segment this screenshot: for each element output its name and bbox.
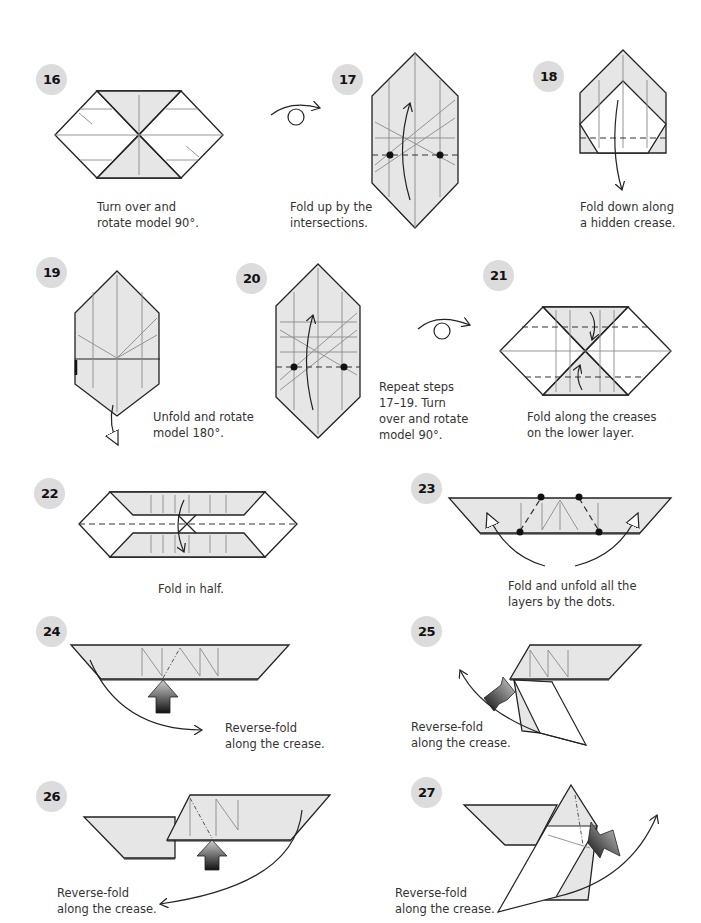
- step-number-badge: 21: [483, 260, 514, 291]
- step-22-figure: [79, 492, 297, 557]
- step-17-caption: Fold up by the intersections.: [290, 199, 372, 231]
- step-25-caption: Reverse-fold along the crease.: [411, 719, 511, 751]
- step-number-badge: 22: [34, 478, 65, 509]
- step-20-figure: [276, 264, 360, 438]
- step-17-figure: [372, 53, 458, 228]
- step-19-figure: [75, 271, 160, 445]
- step-24-figure: [71, 645, 289, 730]
- step-21-caption: Fold along the creases on the lower laye…: [527, 409, 656, 441]
- step-number-badge: 25: [411, 616, 442, 647]
- step-number-badge: 17: [332, 64, 363, 95]
- step-number-badge: 26: [36, 781, 67, 812]
- step-22-caption: Fold in half.: [158, 581, 224, 597]
- turn-over-symbol-icon: [418, 319, 470, 339]
- step-number-badge: 23: [411, 473, 442, 504]
- step-number-badge: 27: [411, 777, 442, 808]
- step-number-badge: 20: [236, 263, 267, 294]
- step-23-figure: [449, 494, 671, 567]
- step-number-badge: 18: [533, 61, 564, 92]
- step-number-badge: 19: [36, 257, 67, 288]
- step-18-caption: Fold down along a hidden crease.: [580, 199, 675, 231]
- step-23-caption: Fold and unfold all the layers by the do…: [508, 578, 636, 610]
- step-19-caption: Unfold and rotate model 180°.: [153, 409, 254, 441]
- step-27-caption: Reverse-fold along the crease.: [395, 885, 495, 917]
- step-number-badge: 24: [36, 616, 67, 647]
- step-20-caption: Repeat steps 17–19. Turn over and rotate…: [379, 379, 468, 443]
- step-16-figure: [55, 91, 223, 178]
- step-number-badge: 16: [36, 64, 67, 95]
- step-24-caption: Reverse-fold along the crease.: [225, 720, 325, 752]
- step-21-figure: [500, 307, 671, 395]
- step-26-caption: Reverse-fold along the crease.: [57, 885, 157, 917]
- step-16-caption: Turn over and rotate model 90°.: [97, 199, 199, 231]
- diagram-canvas: [0, 0, 701, 923]
- turn-over-symbol-icon: [271, 105, 320, 125]
- step-18-figure: [580, 50, 666, 190]
